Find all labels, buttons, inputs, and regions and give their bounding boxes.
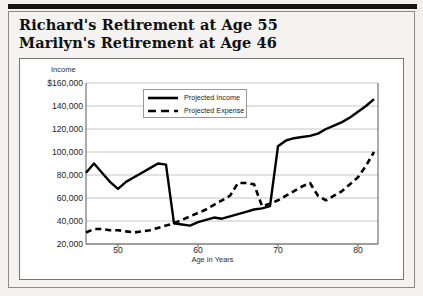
series-lines: [86, 99, 374, 232]
legend-label-1: Projected Expense: [184, 106, 244, 115]
top-rule-decoration: [8, 4, 417, 9]
x-tick-label: 50: [113, 245, 123, 255]
x-tick-label: 60: [193, 245, 203, 255]
solid-line-icon: [147, 93, 179, 103]
x-axis-title: Age in Years: [20, 255, 405, 264]
title-line-1: Richard's Retirement at Age 55: [19, 16, 399, 34]
dashed-line-icon: [147, 106, 179, 116]
x-tick-label: 80: [353, 245, 363, 255]
page: Richard's Retirement at Age 55 Marilyn's…: [0, 0, 423, 296]
series-line-0: [86, 99, 374, 226]
legend-item-projected-income: Projected Income: [144, 91, 246, 104]
series-line-1: [86, 152, 374, 233]
chart-container: Income $160,000140,000120,000100,00080,0…: [19, 58, 404, 280]
legend-label-0: Projected Income: [184, 93, 240, 102]
x-tick-label: 70: [273, 245, 283, 255]
title-line-2: Marilyn's Retirement at Age 46: [19, 34, 399, 52]
plot-area: Income $160,000140,000120,000100,00080,0…: [20, 59, 405, 281]
legend-item-projected-expense: Projected Expense: [144, 104, 246, 117]
chart-legend: Projected Income Projected Expense: [143, 89, 247, 118]
page-title: Richard's Retirement at Age 55 Marilyn's…: [19, 16, 399, 52]
